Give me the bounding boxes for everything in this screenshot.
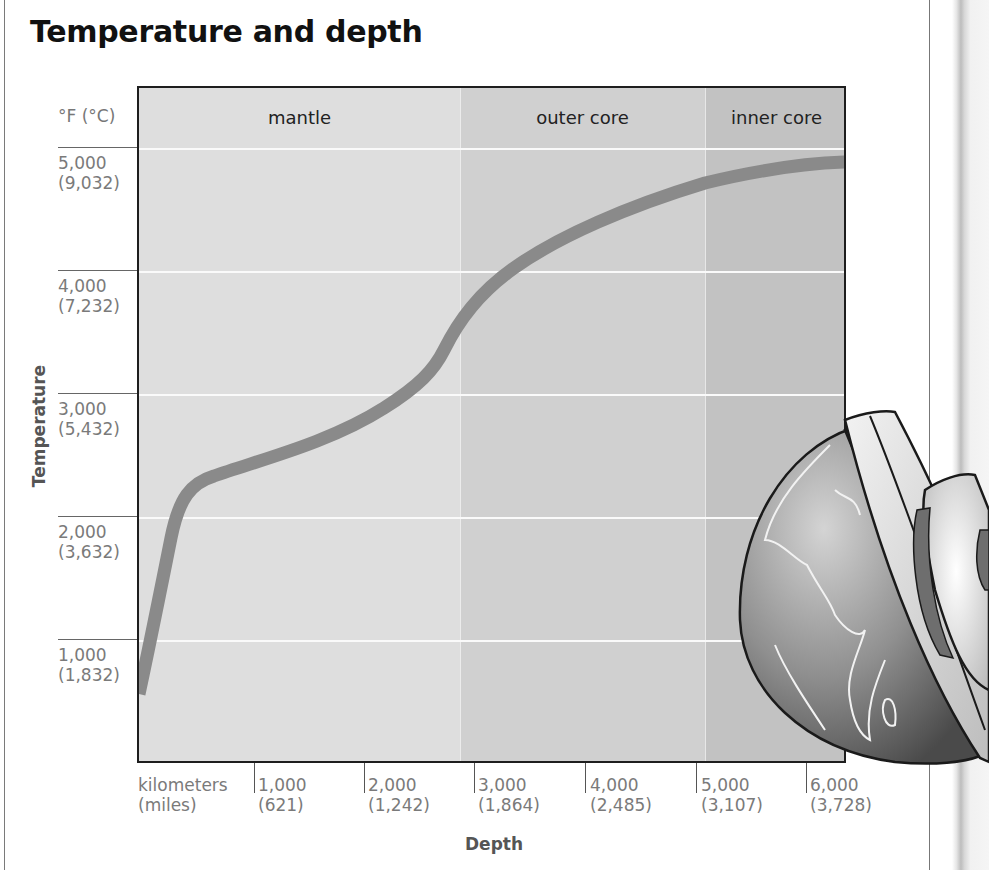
x-unit-secondary: (miles) bbox=[138, 795, 228, 815]
y-tick-secondary: (1,832) bbox=[58, 665, 120, 685]
x-tick-secondary: (1,242) bbox=[368, 795, 430, 815]
y-axis-title: Temperature bbox=[29, 365, 49, 487]
x-tick-secondary: (2,485) bbox=[590, 795, 652, 815]
x-tick-secondary: (3,107) bbox=[701, 795, 763, 815]
x-tick-primary: 4,000 bbox=[590, 775, 652, 795]
x-axis-title: Depth bbox=[465, 834, 523, 854]
y-tick-label: 1,000 (1,832) bbox=[58, 645, 120, 685]
x-tick-primary: 5,000 bbox=[701, 775, 763, 795]
x-unit-primary: kilometers bbox=[138, 775, 228, 795]
x-tick-mark bbox=[474, 763, 475, 793]
y-tick-label: 2,000 (3,632) bbox=[58, 522, 120, 562]
x-tick-primary: 6,000 bbox=[810, 775, 872, 795]
chart-title: Temperature and depth bbox=[30, 14, 422, 49]
x-tick-label: 5,000 (3,107) bbox=[701, 775, 763, 815]
x-axis-unit-label: kilometers (miles) bbox=[138, 775, 228, 815]
y-tick-primary: 4,000 bbox=[58, 276, 120, 296]
y-tick-mark bbox=[58, 516, 137, 517]
x-tick-primary: 2,000 bbox=[368, 775, 430, 795]
x-tick-secondary: (3,728) bbox=[810, 795, 872, 815]
x-tick-label: 2,000 (1,242) bbox=[368, 775, 430, 815]
x-tick-label: 4,000 (2,485) bbox=[590, 775, 652, 815]
x-tick-label: 6,000 (3,728) bbox=[810, 775, 872, 815]
x-tick-mark bbox=[585, 763, 586, 793]
x-tick-secondary: (621) bbox=[258, 795, 307, 815]
y-tick-mark bbox=[58, 393, 137, 394]
y-tick-mark bbox=[58, 270, 137, 271]
y-tick-secondary: (9,032) bbox=[58, 173, 120, 193]
y-tick-primary: 2,000 bbox=[58, 522, 120, 542]
y-tick-label: 5,000 (9,032) bbox=[58, 153, 120, 193]
y-axis-unit-label: °F (°C) bbox=[58, 106, 115, 126]
y-tick-mark bbox=[58, 639, 137, 640]
page-border-left bbox=[4, 0, 5, 870]
x-tick-label: 1,000 (621) bbox=[258, 775, 307, 815]
x-tick-label: 3,000 (1,864) bbox=[478, 775, 540, 815]
x-tick-mark bbox=[696, 763, 697, 793]
x-tick-mark bbox=[254, 763, 255, 793]
y-tick-secondary: (5,432) bbox=[58, 419, 120, 439]
y-tick-mark bbox=[58, 147, 137, 148]
y-tick-secondary: (7,232) bbox=[58, 296, 120, 316]
x-tick-mark bbox=[364, 763, 365, 793]
earth-cutaway-illustration bbox=[735, 390, 989, 770]
x-tick-secondary: (1,864) bbox=[478, 795, 540, 815]
y-tick-primary: 1,000 bbox=[58, 645, 120, 665]
y-tick-label: 3,000 (5,432) bbox=[58, 399, 120, 439]
y-tick-secondary: (3,632) bbox=[58, 542, 120, 562]
y-tick-label: 4,000 (7,232) bbox=[58, 276, 120, 316]
x-tick-primary: 1,000 bbox=[258, 775, 307, 795]
x-tick-primary: 3,000 bbox=[478, 775, 540, 795]
y-tick-primary: 3,000 bbox=[58, 399, 120, 419]
y-tick-primary: 5,000 bbox=[58, 153, 120, 173]
